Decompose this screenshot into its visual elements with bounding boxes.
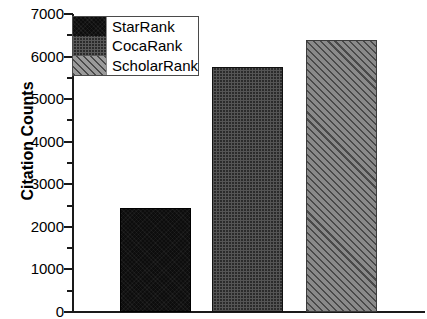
y-tick-minor — [67, 205, 73, 207]
y-tick-major — [64, 13, 73, 15]
y-tick-label: 4000 — [31, 134, 64, 149]
y-tick-major — [64, 268, 73, 270]
y-tick-major — [64, 226, 73, 228]
y-tick-label: 0 — [56, 304, 64, 319]
bar-chart-figure: Citation Counts 010002000300040005000600… — [0, 0, 427, 319]
legend-labels: StarRank CocaRank ScholarRank — [107, 17, 198, 75]
legend-swatch-starrank — [73, 17, 106, 36]
legend-swatch-scholarrank — [73, 56, 106, 75]
y-tick-label: 3000 — [31, 176, 64, 191]
legend: StarRank CocaRank ScholarRank — [72, 16, 199, 76]
bar-scholarrank[interactable] — [306, 40, 377, 312]
y-tick-major — [64, 141, 73, 143]
legend-label-cocarank: CocaRank — [112, 36, 198, 55]
y-tick-minor — [67, 77, 73, 79]
y-tick-label: 1000 — [31, 261, 64, 276]
y-tick-label: 6000 — [31, 49, 64, 64]
y-tick-label: 7000 — [31, 6, 64, 21]
y-tick-label: 2000 — [31, 219, 64, 234]
y-tick-minor — [67, 290, 73, 292]
bar-starrank[interactable] — [120, 208, 191, 312]
y-tick-major — [64, 183, 73, 185]
legend-swatch-cocarank — [73, 36, 106, 55]
y-tick-major — [64, 311, 73, 313]
bar-cocarank[interactable] — [212, 67, 283, 312]
legend-swatches — [73, 17, 107, 75]
y-tick-label: 5000 — [31, 91, 64, 106]
legend-label-scholarrank: ScholarRank — [112, 56, 198, 75]
y-tick-minor — [67, 162, 73, 164]
y-tick-minor — [67, 119, 73, 121]
y-tick-major — [64, 98, 73, 100]
legend-label-starrank: StarRank — [112, 17, 198, 36]
y-tick-minor — [67, 247, 73, 249]
